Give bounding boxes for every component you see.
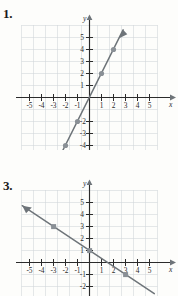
y-axis-label: y bbox=[82, 179, 87, 188]
y-tick-label: 1 bbox=[80, 81, 84, 90]
axes-1 bbox=[16, 15, 176, 151]
x-tick-label: 5 bbox=[148, 101, 152, 110]
graph-1-svg: -5 -4 -3 -2 -1 1 2 3 4 5 5 4 3 2 1 -2 -3… bbox=[0, 0, 178, 150]
x-tick-label: -4 bbox=[38, 266, 44, 275]
y-tick-label: -2 bbox=[80, 117, 86, 126]
y-tick-label: -2 bbox=[80, 282, 86, 291]
x-tick-label: -2 bbox=[62, 266, 68, 275]
y-tick-label: -4 bbox=[80, 141, 86, 150]
problem-3-graph: -5 -4 -3 -2 -1 1 2 3 4 5 5 4 3 2 1 -1 -2… bbox=[0, 178, 178, 296]
y-tick-labels-1: 5 4 3 2 1 -2 -3 -4 bbox=[80, 33, 86, 150]
x-tick-label: 1 bbox=[100, 101, 104, 110]
y-tick-label: 2 bbox=[80, 234, 84, 243]
data-point bbox=[123, 272, 128, 277]
x-tick-label: -5 bbox=[26, 101, 32, 110]
x-tick-label: 2 bbox=[112, 101, 116, 110]
data-point bbox=[63, 143, 68, 148]
data-point bbox=[75, 119, 80, 124]
x-tick-label: -5 bbox=[26, 266, 32, 275]
problem-3: 3. bbox=[0, 178, 178, 296]
x-axis-label: x bbox=[168, 265, 173, 274]
x-tick-label: -2 bbox=[62, 101, 68, 110]
y-tick-label: 4 bbox=[80, 45, 84, 54]
x-axis-label: x bbox=[168, 100, 173, 109]
data-point bbox=[51, 224, 56, 229]
y-tick-label: 5 bbox=[80, 198, 84, 207]
y-tick-label: -3 bbox=[80, 129, 86, 138]
x-tick-label: 1 bbox=[100, 266, 104, 275]
x-tick-label: 5 bbox=[148, 266, 152, 275]
y-axis-label: y bbox=[82, 14, 87, 23]
x-tick-label: -1 bbox=[74, 101, 80, 110]
data-point bbox=[111, 47, 116, 52]
data-point bbox=[99, 71, 104, 76]
x-tick-label: 4 bbox=[136, 266, 140, 275]
problem-1: 1. bbox=[0, 0, 178, 150]
y-tick-label: 3 bbox=[80, 222, 84, 231]
graph-3-svg: -5 -4 -3 -2 -1 1 2 3 4 5 5 4 3 2 1 -1 -2… bbox=[0, 178, 178, 296]
plotted-line-1 bbox=[58, 30, 127, 150]
x-tick-label: -3 bbox=[50, 266, 56, 275]
y-tick-label: 4 bbox=[80, 210, 84, 219]
problem-1-graph: -5 -4 -3 -2 -1 1 2 3 4 5 5 4 3 2 1 -2 -3… bbox=[0, 0, 178, 150]
x-tick-label: -4 bbox=[38, 101, 44, 110]
x-tick-label: 4 bbox=[136, 101, 140, 110]
axes-3 bbox=[16, 180, 176, 296]
y-tick-label: 2 bbox=[80, 69, 84, 78]
y-tick-label: 5 bbox=[80, 33, 84, 42]
y-tick-label: 3 bbox=[80, 57, 84, 66]
y-tick-label: -1 bbox=[80, 270, 86, 279]
x-tick-label: -3 bbox=[50, 101, 56, 110]
data-point bbox=[87, 248, 92, 253]
x-tick-label: 3 bbox=[124, 101, 128, 110]
